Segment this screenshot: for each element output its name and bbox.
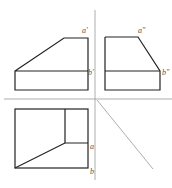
front-view <box>15 38 88 90</box>
label-front-b: b′ <box>88 68 94 77</box>
label-top-b: b <box>90 167 94 176</box>
side-view <box>105 37 160 90</box>
label-front-a: a′ <box>82 26 88 35</box>
top-view <box>15 109 88 168</box>
label-top-a: a <box>90 142 94 151</box>
label-side-b: b″ <box>162 68 170 77</box>
projection-drawing: a′ b′ a″ b″ a b <box>0 0 172 188</box>
miter-line <box>97 100 153 169</box>
label-side-a: a″ <box>138 26 146 35</box>
